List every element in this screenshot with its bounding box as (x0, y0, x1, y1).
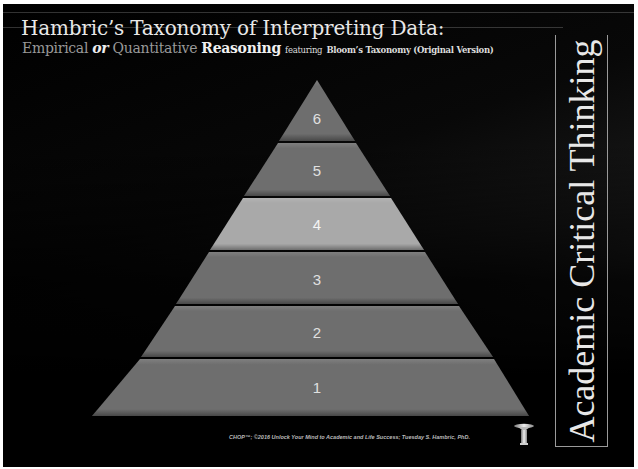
subtitle-reasoning: Reasoning (201, 40, 281, 56)
pyramid-tier-6: 6 (279, 80, 355, 141)
svg-text:4: 4 (313, 216, 321, 233)
slide-subtitle: Empirical or Quantitative Reasoning feat… (22, 40, 494, 56)
slide: Hambric’s Taxonomy of Interpreting Data:… (3, 4, 634, 467)
svg-text:5: 5 (313, 162, 321, 179)
pyramid-tier-1: 1 (92, 359, 529, 416)
svg-text:1: 1 (313, 379, 321, 396)
pyramid-tier-4: 4 (210, 198, 424, 250)
pyramid-tier-5: 5 (244, 143, 390, 196)
pedestal-icon (513, 422, 535, 446)
side-label-box: Academic Critical Thinking (555, 35, 608, 447)
svg-text:6: 6 (313, 110, 321, 127)
subtitle-quantitative: Quantitative (113, 40, 198, 56)
subtitle-bloom: Bloom’s Taxonomy (Original Version) (326, 45, 493, 55)
pyramid-tier-2: 2 (141, 306, 493, 357)
pyramid-diagram: 6 5 4 3 2 1 (3, 4, 634, 467)
subtitle-empirical: Empirical (22, 40, 88, 56)
slide-title: Hambric’s Taxonomy of Interpreting Data: (21, 16, 444, 40)
pyramid-tier-3: 3 (176, 252, 458, 304)
svg-text:3: 3 (313, 271, 321, 288)
side-label: Academic Critical Thinking (561, 39, 603, 442)
subtitle-featuring: featuring (285, 45, 322, 55)
subtitle-or: or (92, 40, 108, 56)
svg-text:2: 2 (313, 324, 321, 341)
footer-copyright: CHOP™; ©2016 Unlock Your Mind to Academi… (229, 434, 470, 440)
